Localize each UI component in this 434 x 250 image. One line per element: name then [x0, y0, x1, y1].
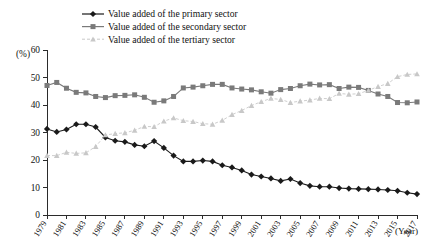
line-chart: Value added of the primary sectorValue a… — [0, 0, 434, 250]
data-point-marker — [268, 91, 273, 96]
x-tick-label: 1997 — [206, 218, 224, 238]
data-point-marker — [405, 100, 410, 105]
data-point-marker — [152, 100, 157, 105]
data-point-marker — [414, 191, 420, 197]
y-tick-label: 40 — [31, 100, 41, 110]
y-tick-label: 30 — [31, 128, 41, 138]
legend-label-1: Value added of the primary sector — [108, 8, 239, 19]
data-point-marker — [239, 108, 245, 113]
data-point-marker — [83, 90, 88, 95]
data-point-marker — [346, 91, 352, 96]
data-point-marker — [356, 85, 361, 90]
x-tick-label: 1989 — [128, 219, 146, 239]
data-point-marker — [307, 82, 312, 87]
data-point-marker — [239, 167, 245, 173]
data-point-marker — [327, 82, 332, 87]
y-axis: 0102030405060 — [31, 45, 47, 220]
data-point-marker — [297, 98, 303, 103]
data-point-marker — [219, 162, 225, 168]
data-point-marker — [142, 95, 147, 100]
data-point-marker — [356, 91, 362, 96]
data-point-marker — [44, 126, 50, 132]
data-point-marker — [375, 186, 381, 192]
data-point-marker — [278, 178, 284, 184]
data-point-marker — [171, 115, 177, 120]
data-point-marker — [336, 185, 342, 191]
chart-container: Value added of the primary sectorValue a… — [0, 0, 434, 250]
data-point-marker — [229, 164, 235, 170]
data-point-marker — [317, 82, 322, 87]
legend: Value added of the primary sectorValue a… — [82, 8, 247, 44]
x-tick-label: 2003 — [265, 219, 283, 239]
data-point-marker — [258, 173, 264, 179]
x-tick-label: 2011 — [343, 219, 360, 239]
y-tick-label: 50 — [31, 73, 41, 83]
data-point-marker — [180, 158, 186, 164]
x-tick-label: 1983 — [70, 219, 88, 239]
series-3 — [44, 71, 420, 158]
data-point-marker — [132, 92, 137, 97]
data-point-marker — [346, 85, 351, 90]
data-point-marker — [112, 138, 118, 144]
data-point-marker — [113, 93, 118, 98]
x-tick-label: 1995 — [187, 219, 205, 239]
data-point-marker — [375, 84, 381, 89]
x-axis-unit-label: (Year) — [395, 226, 418, 236]
x-tick-label: 1979 — [31, 219, 49, 239]
data-point-marker — [385, 187, 391, 193]
data-point-marker — [181, 85, 186, 90]
data-point-marker — [200, 157, 206, 163]
legend-label-3: Value added of the tertiary sector — [108, 34, 236, 45]
data-point-marker — [103, 95, 108, 100]
data-point-marker — [298, 83, 303, 88]
data-point-marker — [278, 87, 283, 92]
data-point-marker — [220, 82, 225, 87]
data-point-marker — [132, 142, 138, 148]
data-point-marker — [288, 86, 293, 91]
data-point-marker — [171, 94, 176, 99]
data-point-marker — [191, 85, 196, 90]
data-point-marker — [415, 99, 420, 104]
data-point-marker — [288, 100, 294, 105]
x-tick-label: 1999 — [226, 219, 244, 239]
x-tick-label: 2013 — [362, 219, 380, 239]
data-point-marker — [93, 144, 99, 149]
data-point-marker — [190, 158, 196, 164]
data-point-marker — [385, 94, 390, 99]
data-point-marker — [239, 87, 244, 92]
x-tick-label: 2007 — [304, 218, 322, 238]
legend-marker-1 — [90, 11, 96, 17]
y-tick-label: 60 — [31, 45, 41, 55]
data-point-marker — [210, 82, 215, 87]
x-tick-label: 1985 — [90, 219, 108, 239]
data-point-marker — [209, 158, 215, 164]
x-axis: 1979198119831985198719891991199319951997… — [31, 215, 419, 239]
data-point-marker — [63, 126, 69, 132]
legend-label-2: Value added of the secondary sector — [108, 21, 247, 32]
data-point-marker — [268, 96, 274, 101]
data-point-marker — [200, 83, 205, 88]
data-point-marker — [249, 87, 254, 92]
x-tick-label: 1987 — [109, 218, 127, 238]
data-point-marker — [404, 190, 410, 196]
data-point-marker — [327, 96, 333, 101]
data-point-marker — [326, 184, 332, 190]
data-point-marker — [249, 103, 255, 108]
data-point-marker — [54, 129, 60, 135]
data-point-marker — [346, 186, 352, 192]
data-point-marker — [141, 143, 147, 149]
data-point-marker — [161, 98, 166, 103]
x-tick-label: 1981 — [51, 219, 69, 239]
data-point-marker — [161, 118, 167, 123]
data-point-marker — [112, 131, 118, 136]
data-point-marker — [307, 183, 313, 189]
data-point-marker — [74, 90, 79, 95]
data-point-marker — [394, 188, 400, 194]
data-point-marker — [376, 92, 381, 97]
data-point-marker — [337, 86, 342, 91]
data-point-marker — [132, 128, 138, 133]
x-tick-label: 2009 — [323, 219, 341, 239]
data-point-marker — [122, 93, 127, 98]
data-point-marker — [355, 186, 361, 192]
y-tick-label: 20 — [31, 155, 41, 165]
